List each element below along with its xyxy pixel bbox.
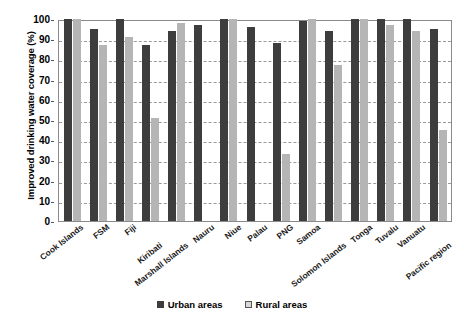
- bar-urban-nauru: [194, 25, 202, 221]
- y-tick-mark-80: [51, 60, 54, 61]
- bar-urban-fsm: [90, 29, 98, 221]
- bar-rural-vanuatu: [412, 31, 420, 221]
- x-label-pacific-region: Pacific region: [404, 240, 453, 282]
- bar-group: [294, 21, 320, 221]
- bar-groups: [59, 21, 451, 221]
- bar-group: [190, 21, 216, 221]
- y-tick-mark-30: [51, 161, 54, 162]
- y-tick-mark-10: [51, 202, 54, 203]
- bar-rural-kiribati: [151, 118, 159, 221]
- y-tick-70: 70: [39, 76, 50, 86]
- y-tick-mark-20: [51, 182, 54, 183]
- bar-rural-cook-islands: [73, 19, 81, 221]
- y-tick-mark-100: [51, 20, 54, 21]
- y-tick-50: 50: [39, 116, 50, 126]
- bar-rural-png: [282, 154, 290, 221]
- bar-rural-fiji: [125, 37, 133, 221]
- legend-item-rural: Rural areas: [245, 299, 308, 310]
- legend-label: Urban areas: [168, 299, 223, 310]
- bar-urban-cook-islands: [64, 19, 72, 221]
- bar-rural-tonga: [360, 19, 368, 221]
- bar-group: [216, 21, 242, 221]
- bar-group: [268, 21, 294, 221]
- y-tick-80: 80: [39, 55, 50, 65]
- legend-swatch-urban-icon: [157, 301, 164, 308]
- bar-urban-kiribati: [142, 45, 150, 221]
- bar-group: [85, 21, 111, 221]
- chart-legend: Urban areasRural areas: [0, 299, 464, 310]
- bar-rural-niue: [229, 19, 237, 221]
- y-tick-40: 40: [39, 136, 50, 146]
- bar-group: [399, 21, 425, 221]
- bar-urban-tuvalu: [377, 19, 385, 221]
- bar-rural-tuvalu: [386, 25, 394, 221]
- y-axis-tick-labels: 0102030405060708090100: [0, 20, 54, 222]
- y-tick-mark-90: [51, 40, 54, 41]
- x-label-palau: Palau: [245, 222, 269, 244]
- bar-rural-solomon-islands: [334, 65, 342, 221]
- y-tick-10: 10: [39, 197, 50, 207]
- bar-group: [425, 21, 451, 221]
- bar-group: [347, 21, 373, 221]
- x-label-vanuatu: Vanuatu: [395, 222, 427, 250]
- x-label-solomon-islands: Solomon Islands: [289, 240, 348, 289]
- x-label-tonga: Tonga: [349, 222, 374, 245]
- bar-rural-samoa: [308, 19, 316, 221]
- bar-rural-fsm: [99, 45, 107, 221]
- bar-rural-pacific-region: [439, 130, 447, 221]
- bar-chart: Improved drinking water coverage (%) 010…: [0, 0, 464, 322]
- bar-urban-marshall-islands: [168, 31, 176, 221]
- bar-urban-pacific-region: [430, 29, 438, 221]
- x-axis-tick-labels: Cook IslandsFSMFijiKiribatiMarshall Isla…: [58, 222, 452, 292]
- bar-group: [164, 21, 190, 221]
- y-tick-100: 100: [33, 15, 50, 25]
- y-tick-mark-0: [51, 222, 54, 223]
- bar-group: [59, 21, 85, 221]
- x-label-fsm: FSM: [91, 222, 111, 241]
- x-label-niue: Niue: [222, 222, 242, 241]
- bar-urban-samoa: [299, 21, 307, 221]
- x-label-cook-islands: Cook Islands: [38, 222, 85, 262]
- bar-group: [242, 21, 268, 221]
- x-label-nauru: Nauru: [191, 222, 216, 245]
- y-tick-90: 90: [39, 35, 50, 45]
- legend-swatch-rural-icon: [245, 301, 252, 308]
- legend-label: Rural areas: [256, 299, 308, 310]
- x-label-fiji: Fiji: [122, 222, 138, 237]
- y-tick-mark-40: [51, 141, 54, 142]
- bar-group: [111, 21, 137, 221]
- x-label-samoa: Samoa: [294, 222, 322, 247]
- bar-urban-palau: [247, 27, 255, 221]
- x-label-png: PNG: [275, 222, 295, 241]
- y-tick-20: 20: [39, 177, 50, 187]
- bar-urban-png: [273, 43, 281, 221]
- plot-area: [58, 20, 452, 222]
- bar-urban-vanuatu: [403, 19, 411, 221]
- y-tick-30: 30: [39, 156, 50, 166]
- y-tick-mark-70: [51, 81, 54, 82]
- bar-urban-solomon-islands: [325, 31, 333, 221]
- bar-group: [137, 21, 163, 221]
- y-tick-60: 60: [39, 96, 50, 106]
- bar-group: [320, 21, 346, 221]
- y-tick-mark-60: [51, 101, 54, 102]
- bar-urban-fiji: [116, 19, 124, 221]
- bar-urban-tonga: [351, 19, 359, 221]
- legend-item-urban: Urban areas: [157, 299, 223, 310]
- y-tick-0: 0: [44, 217, 50, 227]
- bar-rural-marshall-islands: [177, 23, 185, 221]
- y-tick-mark-50: [51, 121, 54, 122]
- bar-urban-niue: [220, 19, 228, 221]
- bar-group: [373, 21, 399, 221]
